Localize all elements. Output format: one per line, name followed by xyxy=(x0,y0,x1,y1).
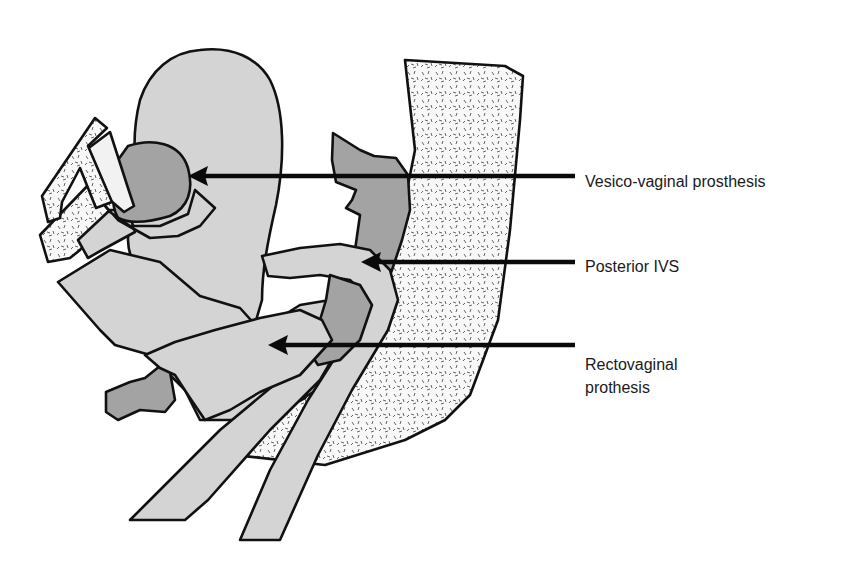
pelvic-anatomy-diagram xyxy=(0,0,846,571)
label-rectovaginal-line1: Rectovaginal xyxy=(585,355,678,375)
label-rectovaginal-line2: prothesis xyxy=(585,378,650,398)
label-posterior-ivs: Posterior IVS xyxy=(585,257,679,277)
label-vesico-vaginal-prosthesis: Vesico-vaginal prosthesis xyxy=(585,172,766,192)
rectum-lower-shape xyxy=(106,366,175,420)
